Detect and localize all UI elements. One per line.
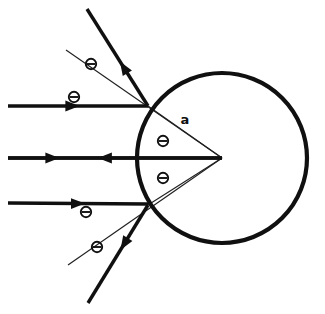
labels-layer: a bbox=[181, 112, 190, 127]
reflected-rays-layer bbox=[8, 9, 222, 303]
incident-rays-layer bbox=[8, 101, 222, 209]
ray-reflection-diagram: ΘΘΘΘΘΘ a bbox=[0, 0, 325, 314]
theta-lower-reflected: Θ bbox=[92, 232, 110, 252]
theta-lower-incident: Θ bbox=[81, 197, 99, 217]
theta-inner-lower: Θ bbox=[158, 163, 176, 183]
theta-upper-incident: Θ bbox=[69, 82, 87, 102]
reflected-ray-middle-arrowhead bbox=[98, 153, 112, 164]
figure-root: ΘΘΘΘΘΘ a bbox=[0, 0, 325, 314]
angle-markers-layer: ΘΘΘΘΘΘ bbox=[69, 49, 176, 252]
radius-label: a bbox=[181, 112, 190, 127]
reflected-ray-bottom bbox=[88, 205, 148, 303]
theta-inner-upper: Θ bbox=[158, 126, 176, 146]
